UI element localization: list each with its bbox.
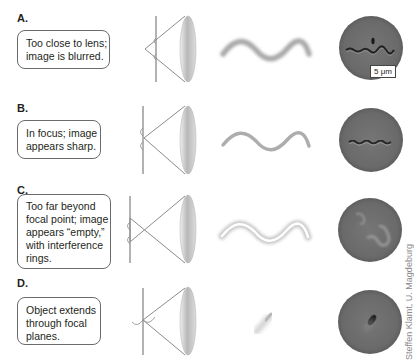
panel-d-optics xyxy=(132,287,196,355)
light-cone xyxy=(130,196,185,263)
photo-credit: Steffen Klamt, U. Magdeburg xyxy=(404,244,414,360)
light-cone xyxy=(144,106,185,174)
scale-bar-label: 5 μm xyxy=(370,65,396,78)
panel-b-optics xyxy=(141,106,197,174)
lens-icon xyxy=(180,16,196,82)
panel-a-optics xyxy=(145,16,196,82)
blurred-wave-icon xyxy=(223,41,309,59)
micrograph-b xyxy=(339,108,403,172)
panel-c-optics xyxy=(128,195,197,263)
light-cone xyxy=(145,16,185,82)
micrograph-c xyxy=(338,198,402,262)
partial-object-icon xyxy=(256,314,271,332)
light-cone xyxy=(143,288,185,355)
micrograph-d xyxy=(338,290,402,354)
specimen-curve xyxy=(132,317,155,325)
sharp-wave-icon xyxy=(223,133,309,150)
lens-icon xyxy=(180,287,196,355)
lens-icon xyxy=(180,195,196,263)
empty-wave-icon xyxy=(222,224,308,241)
lens-icon xyxy=(180,106,196,174)
